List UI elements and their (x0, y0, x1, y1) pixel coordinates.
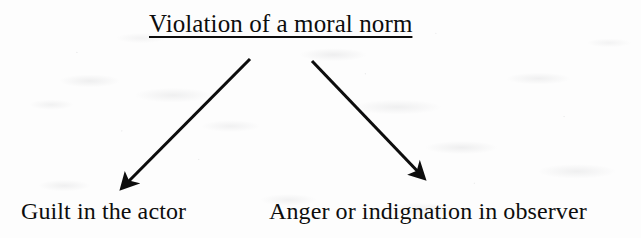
outcome-label-anger: Anger or indignation in observer (269, 199, 587, 223)
scanned-diagram-page: Violation of a moral norm Guilt in the a… (0, 0, 641, 238)
arrow-down-left-icon (122, 59, 250, 188)
diagram-title: Violation of a moral norm (149, 11, 412, 36)
outcome-label-guilt: Guilt in the actor (21, 199, 186, 223)
arrow-down-right-icon (312, 61, 424, 178)
